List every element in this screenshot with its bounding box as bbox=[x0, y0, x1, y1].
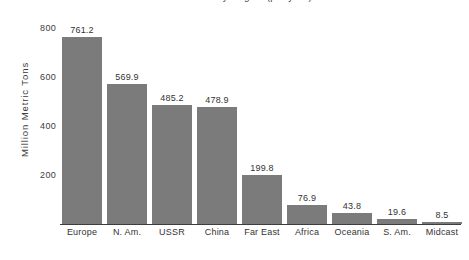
bar-group: 478.9 bbox=[197, 12, 237, 224]
x-axis-tick-labels: EuropeN. Am.USSRChinaFar EastAfricaOcean… bbox=[60, 227, 462, 243]
bar-value-label: 8.5 bbox=[416, 210, 468, 220]
chart-title: World Carbon Dioxide Emissions by Region… bbox=[62, 0, 462, 5]
x-tick-label: Midcast bbox=[415, 227, 469, 237]
y-tick-label: 800 bbox=[30, 23, 56, 33]
bar-group: 199.8 bbox=[242, 12, 282, 224]
bar-group: 8.5 bbox=[422, 12, 462, 224]
bar-value-label: 761.2 bbox=[56, 25, 108, 35]
bar[interactable] bbox=[107, 84, 147, 224]
y-tick-label: 400 bbox=[30, 121, 56, 131]
y-tick-label: 200 bbox=[30, 170, 56, 180]
bar-value-label: 478.9 bbox=[191, 95, 243, 105]
bar[interactable] bbox=[242, 175, 282, 224]
bar[interactable] bbox=[62, 37, 102, 224]
bar-group: 761.2 bbox=[62, 12, 102, 224]
y-tick-label: 600 bbox=[30, 72, 56, 82]
bar-group: 485.2 bbox=[152, 12, 192, 224]
y-axis-tick-labels: 200400600800 bbox=[26, 0, 56, 260]
bar[interactable] bbox=[197, 107, 237, 224]
bar-value-label: 569.9 bbox=[101, 72, 153, 82]
bar-group: 569.9 bbox=[107, 12, 147, 224]
bar-group: 19.6 bbox=[377, 12, 417, 224]
bar[interactable] bbox=[287, 205, 327, 224]
bar-group: 43.8 bbox=[332, 12, 372, 224]
bar-value-label: 199.8 bbox=[236, 163, 288, 173]
bar[interactable] bbox=[332, 213, 372, 224]
plot-area: 761.2569.9485.2478.9199.876.943.819.68.5 bbox=[60, 12, 462, 224]
bar-group: 76.9 bbox=[287, 12, 327, 224]
bar-chart: World Carbon Dioxide Emissions by Region… bbox=[0, 0, 469, 260]
bar[interactable] bbox=[152, 105, 192, 224]
x-axis-line bbox=[60, 224, 461, 225]
